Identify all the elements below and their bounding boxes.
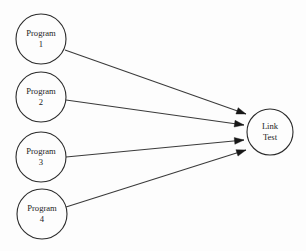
node-program-1-label-line1: Program xyxy=(26,28,56,38)
node-program-4-label-line1: Program xyxy=(27,203,57,213)
edge-program-3-to-link-test xyxy=(66,140,244,157)
node-link-test-label-line2: Test xyxy=(263,132,278,142)
diagram-svg: Program 1 Program 2 Program 3 Program 4 … xyxy=(0,0,306,251)
node-program-1[interactable]: Program 1 xyxy=(16,14,66,64)
arrowhead-icon-1 xyxy=(236,108,246,114)
node-program-3-label-line1: Program xyxy=(26,146,56,156)
edge-program-1-to-link-test xyxy=(65,50,246,114)
node-program-1-label-line2: 1 xyxy=(39,39,43,49)
edge-program-4-to-link-test xyxy=(66,150,246,207)
node-program-2-label-line1: Program xyxy=(26,86,56,96)
node-program-3-label-line2: 3 xyxy=(39,157,43,167)
arrowhead-group xyxy=(234,108,246,156)
node-program-4[interactable]: Program 4 xyxy=(17,189,67,239)
node-link-test-label-line1: Link xyxy=(262,121,279,131)
arrowhead-icon-4 xyxy=(236,150,246,156)
node-program-3[interactable]: Program 3 xyxy=(16,132,66,182)
arrowhead-icon-3 xyxy=(234,138,244,145)
arrowhead-icon-2 xyxy=(234,120,244,127)
diagram-canvas: Program 1 Program 2 Program 3 Program 4 … xyxy=(0,0,306,251)
node-link-test[interactable]: Link Test xyxy=(247,109,293,155)
edge-group xyxy=(65,50,246,207)
node-program-2[interactable]: Program 2 xyxy=(16,72,66,122)
node-program-2-label-line2: 2 xyxy=(39,97,43,107)
node-program-4-label-line2: 4 xyxy=(40,214,45,224)
